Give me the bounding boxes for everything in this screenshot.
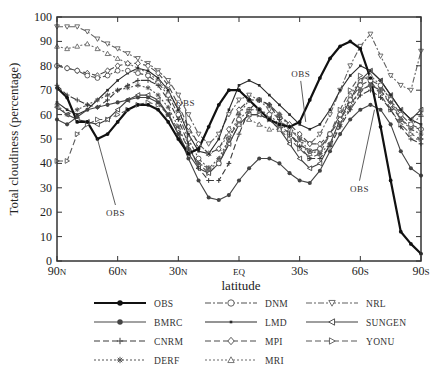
data-point-bmrc bbox=[358, 108, 362, 112]
data-point-bmrc bbox=[348, 117, 352, 121]
legend-marker-bmrc bbox=[117, 319, 122, 324]
x-axis-title: latitude bbox=[222, 278, 261, 293]
data-point-mri bbox=[75, 44, 80, 48]
y-tick-label: 100 bbox=[34, 10, 52, 24]
legend-label: YONU bbox=[366, 337, 395, 347]
data-point-dnm bbox=[378, 83, 383, 88]
data-point-dnm bbox=[125, 68, 130, 73]
data-point-bmrc bbox=[106, 103, 110, 107]
data-point-derf bbox=[378, 88, 383, 93]
legend-item-mri: MRI bbox=[205, 356, 284, 366]
legend-item-nrl: NRL bbox=[306, 299, 386, 309]
data-point-obs bbox=[318, 76, 322, 80]
data-point-lmd bbox=[207, 152, 210, 155]
data-point-dnm bbox=[85, 73, 90, 78]
data-point-nrl bbox=[378, 54, 383, 58]
data-point-nrl bbox=[348, 64, 353, 68]
data-point-lmd bbox=[339, 89, 342, 92]
data-point-dnm bbox=[267, 112, 272, 117]
data-point-bmrc bbox=[318, 169, 322, 173]
x-tick-label: 60N bbox=[108, 264, 127, 278]
data-point-bmrc bbox=[75, 115, 79, 119]
plot-frame bbox=[57, 17, 421, 261]
data-point-lmd bbox=[116, 79, 119, 82]
data-point-bmrc bbox=[116, 100, 120, 104]
data-point-lmd bbox=[106, 89, 109, 92]
data-point-dnm bbox=[135, 71, 140, 76]
data-point-bmrc bbox=[227, 193, 231, 197]
data-point-lmd bbox=[238, 84, 241, 87]
data-point-bmrc bbox=[85, 108, 89, 112]
data-point-derf bbox=[317, 151, 322, 156]
data-point-obs bbox=[146, 103, 150, 107]
data-point-dnm bbox=[358, 83, 363, 88]
data-point-yonu bbox=[116, 112, 120, 117]
data-point-mri bbox=[65, 46, 70, 50]
data-point-obs bbox=[217, 103, 221, 107]
data-point-derf bbox=[226, 137, 231, 142]
legend-item-mpi: MPI bbox=[205, 337, 283, 347]
data-point-lmd bbox=[217, 138, 220, 141]
data-point-lmd bbox=[278, 104, 281, 107]
data-point-dnm bbox=[348, 98, 353, 103]
data-point-lmd bbox=[66, 108, 69, 111]
data-point-mri bbox=[95, 46, 100, 50]
data-point-bmrc bbox=[298, 178, 302, 182]
data-point-mpi bbox=[115, 63, 120, 69]
data-point-cnrm bbox=[146, 78, 151, 83]
data-point-obs bbox=[166, 120, 170, 124]
data-point-bmrc bbox=[237, 178, 241, 182]
legend-marker-lmd bbox=[230, 321, 233, 324]
data-point-dnm bbox=[146, 73, 151, 78]
y-tick-label: 50 bbox=[40, 132, 52, 146]
y-tick-label: 20 bbox=[40, 205, 52, 219]
x-tick-label: 90N bbox=[48, 264, 67, 278]
data-point-bmrc bbox=[247, 166, 251, 170]
data-point-derf bbox=[398, 117, 403, 122]
data-point-nrl bbox=[186, 113, 191, 117]
data-point-dnm bbox=[65, 66, 70, 71]
data-point-lmd bbox=[137, 67, 140, 70]
legend-label: LMD bbox=[265, 318, 287, 328]
data-point-bmrc bbox=[146, 95, 150, 99]
data-point-sungen bbox=[95, 122, 99, 127]
data-point-dnm bbox=[237, 117, 242, 122]
x-tick-label: 30S bbox=[291, 264, 308, 278]
legend-item-cnrm: CNRM bbox=[94, 337, 183, 347]
data-point-lmd bbox=[399, 108, 402, 111]
data-point-nrl bbox=[105, 42, 110, 46]
data-point-obs bbox=[247, 98, 251, 102]
data-point-derf bbox=[216, 156, 221, 161]
data-point-obs bbox=[358, 47, 362, 51]
data-point-nrl bbox=[196, 132, 201, 136]
data-point-obs bbox=[348, 40, 352, 44]
data-point-cnrm bbox=[206, 178, 211, 183]
data-point-bmrc bbox=[126, 98, 130, 102]
data-point-bmrc bbox=[267, 156, 271, 160]
x-tick-label: 90S bbox=[412, 264, 429, 278]
data-point-bmrc bbox=[95, 105, 99, 109]
data-point-bmrc bbox=[166, 113, 170, 117]
legend-label: SUNGEN bbox=[366, 318, 406, 328]
x-tick-label: 60S bbox=[352, 264, 369, 278]
legend-marker-yonu bbox=[329, 338, 335, 344]
data-point-obs bbox=[187, 152, 191, 156]
data-point-obs bbox=[267, 118, 271, 122]
data-point-lmd bbox=[308, 128, 311, 131]
y-tick-label: 10 bbox=[40, 230, 52, 244]
x-axis: 90N60N30NEQ30S60S90S bbox=[48, 17, 430, 278]
data-point-derf bbox=[408, 127, 413, 132]
data-point-mri bbox=[85, 41, 90, 45]
data-point-dnm bbox=[115, 68, 120, 73]
data-point-obs bbox=[106, 132, 110, 136]
data-point-lmd bbox=[369, 69, 372, 72]
data-point-obs bbox=[257, 108, 261, 112]
data-point-dnm bbox=[398, 112, 403, 117]
data-point-mri bbox=[115, 56, 120, 60]
data-point-derf bbox=[307, 149, 312, 154]
data-point-bmrc bbox=[389, 122, 393, 126]
data-point-obs bbox=[379, 125, 383, 129]
data-point-nrl bbox=[408, 88, 413, 92]
legend-item-obs: OBS bbox=[94, 299, 173, 309]
legend-label: BMRC bbox=[154, 318, 183, 328]
